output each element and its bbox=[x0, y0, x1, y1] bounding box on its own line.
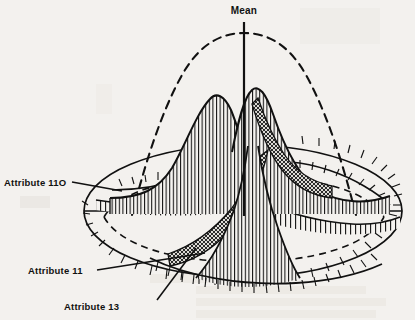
label-attribute-11: Attribute 11 bbox=[28, 265, 83, 276]
label-attribute-110: Attribute 11O bbox=[4, 177, 66, 188]
figure-root: Mean Attribute 11O Attribute 11 Attribut… bbox=[0, 0, 415, 320]
distribution-surface-figure: Mean Attribute 11O Attribute 11 Attribut… bbox=[0, 0, 415, 320]
label-attribute-13: Attribute 13 bbox=[64, 301, 119, 312]
leader-line-attribute-11 bbox=[97, 253, 205, 270]
mean-axis-label: Mean bbox=[231, 5, 257, 16]
leader-line-attribute-110 bbox=[72, 182, 122, 191]
